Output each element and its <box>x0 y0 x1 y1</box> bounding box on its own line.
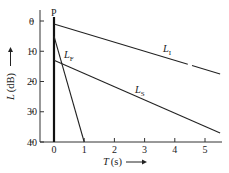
x-axis-label: T(s) <box>103 156 147 168</box>
y-tick-label: 40 <box>27 137 37 148</box>
label-L_F: LF <box>63 49 74 63</box>
y-axis-label: L(dB) <box>5 47 17 101</box>
x-tick-label: 3 <box>142 144 147 155</box>
y-tick-label: 10 <box>27 46 37 57</box>
y-label-main: L <box>5 94 16 101</box>
series <box>54 17 220 142</box>
line-L_I <box>192 65 220 73</box>
svg-text:L(dB): L(dB) <box>5 72 17 101</box>
x-arrowhead-icon <box>142 160 147 165</box>
p-marker-label: P <box>51 7 57 18</box>
label-L_I: LI <box>162 43 172 57</box>
decay-chart: 010203040 012345 LILSLF P T(s) L(dB) <box>0 0 229 173</box>
x-label-unit: (s) <box>111 156 123 168</box>
x-tick-label: 2 <box>112 144 117 155</box>
series-labels: LILSLF <box>63 43 172 98</box>
y-arrowhead-icon <box>8 47 13 52</box>
svg-text:T(s): T(s) <box>103 156 122 168</box>
y-tick-label: 0 <box>29 16 34 27</box>
x-tick-label: 1 <box>82 144 87 155</box>
x-ticks: 012345 <box>52 138 208 155</box>
x-tick-label: 0 <box>52 144 57 155</box>
x-label-main: T <box>103 156 110 167</box>
x-tick-label: 5 <box>203 144 208 155</box>
y-label-unit: (dB) <box>5 72 17 92</box>
y-tick-label: 30 <box>27 106 37 117</box>
y-tick-label: 20 <box>27 76 37 87</box>
x-tick-label: 4 <box>172 144 177 155</box>
y-ticks: 010203040 <box>27 16 44 148</box>
